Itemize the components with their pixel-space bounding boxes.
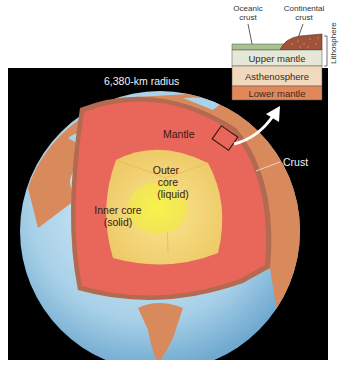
lithosphere-label: Lithosphere	[329, 22, 338, 64]
outer-core-label-2: core	[148, 176, 188, 188]
lower-mantle-label: Lower mantle	[232, 88, 322, 99]
outer-core-label: Outer	[146, 164, 186, 176]
upper-mantle-label: Upper mantle	[232, 53, 322, 64]
inner-core-label: Inner core	[90, 204, 146, 216]
mantle-label: Mantle	[163, 128, 195, 140]
outer-core-label-3: (liquid)	[148, 188, 198, 200]
crust-inset: Oceanic crust Continental crust Upper ma…	[230, 0, 340, 105]
radius-label: 6,380-km radius	[104, 75, 179, 87]
diagram-panel: 6,380-km radius Mantle Crust Outer core …	[8, 68, 328, 360]
inner-core-label-2: (solid)	[90, 216, 146, 228]
outer-core-line1: Outer	[146, 164, 186, 176]
crust-label: Crust	[283, 156, 308, 168]
earth-globe	[8, 68, 328, 360]
asthenosphere-label: Asthenosphere	[232, 71, 322, 82]
